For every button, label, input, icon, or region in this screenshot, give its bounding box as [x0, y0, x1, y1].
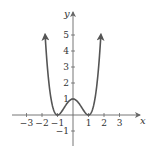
x-axis-label: x [140, 115, 146, 126]
x-tick-label: −2 [35, 118, 48, 128]
y-tick-label: −1 [56, 126, 69, 136]
y-tick-label: 3 [63, 62, 69, 72]
y-axis: −112345 y [56, 8, 75, 146]
y-tick-label: 5 [63, 30, 69, 40]
function-graph: −3−2−1123 x −112345 y [0, 0, 150, 156]
y-axis-label: y [63, 8, 70, 19]
x-tick-label: 3 [117, 118, 123, 128]
x-axis: −3−2−1123 x [12, 113, 146, 128]
x-tick-label: 1 [86, 118, 92, 128]
x-tick-label: 2 [101, 118, 107, 128]
y-tick-label: 2 [63, 78, 69, 88]
curve-right-branch [73, 35, 101, 115]
y-tick-label: 4 [63, 46, 69, 56]
x-tick-label: −3 [20, 118, 34, 128]
